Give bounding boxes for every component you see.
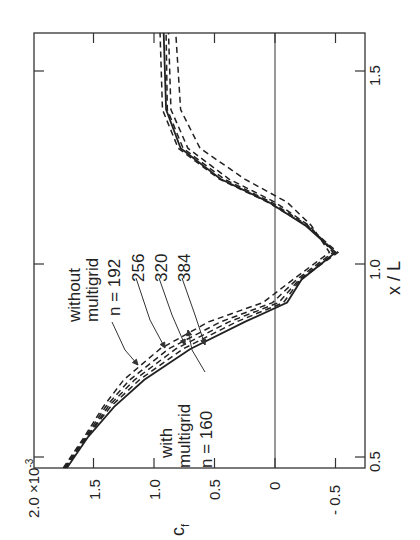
ann-n192: n = 192 (106, 259, 123, 316)
ann-without-multigrid: multigrid (84, 258, 101, 322)
curve-without-multigrid-n-384 (66, 33, 338, 468)
axis-ticks (34, 33, 365, 468)
ann-384: 384 (176, 254, 193, 282)
arrowhead-icon (160, 342, 165, 348)
ann-n160: n = 160 (198, 411, 215, 468)
curve-without-multigrid-n-256 (64, 33, 333, 468)
curve-without-multigrid-n-320 (64, 33, 335, 468)
cf-tick-0.5: 0.5 (206, 479, 223, 500)
annotation-arrow (112, 322, 138, 365)
arrowhead-icon (180, 339, 185, 345)
ann-with-multigrid: multigrid (176, 404, 193, 468)
ann-320: 320 (153, 254, 170, 282)
plot-frame (34, 33, 365, 468)
xL-tick-1.0: 1.0 (366, 259, 383, 280)
xL-tick-1.5: 1.5 (366, 65, 383, 86)
cf-top-label: 2.0 ×10-3 (24, 459, 42, 518)
xL-axis-title: x / L (384, 261, 405, 295)
ann-256: 256 (130, 254, 147, 282)
xL-tick-0.5: 0.5 (366, 451, 383, 472)
annotation-arrows (112, 278, 206, 372)
cf-tick-1.5: 1.5 (86, 479, 103, 500)
data-curves (63, 33, 338, 468)
cf-tick-neg0.5: - 0.5 (326, 485, 343, 515)
ann-with: with (158, 428, 175, 458)
cf-axis-title: cf (168, 524, 191, 536)
annotation-arrow (159, 278, 185, 345)
arrowhead-icon (187, 330, 192, 336)
curve-without-multigrid-n-192 (63, 33, 329, 468)
cf-tick-1.0: 1.0 (146, 479, 163, 500)
ann-without: without (66, 268, 83, 322)
curve-with-multigrid-n-160 (67, 33, 336, 468)
annotation-arrow (136, 278, 165, 348)
cf-tick-0: 0 (266, 482, 283, 490)
